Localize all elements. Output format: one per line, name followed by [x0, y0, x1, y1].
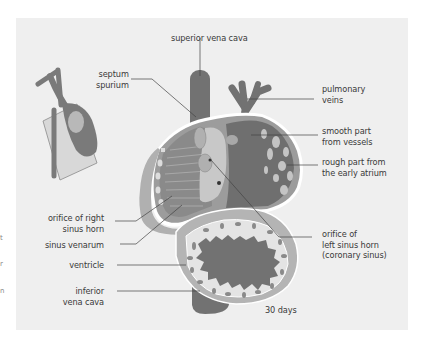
label-smooth-part: smooth part from vessels	[322, 126, 372, 147]
label-orifice-right-sinus-horn: orifice of right sinus horn	[48, 213, 104, 234]
edge-mark: t	[0, 234, 3, 242]
label-orifice-left-sinus-horn: orifice of left sinus horn (coronary sin…	[322, 229, 387, 261]
edge-mark: r	[0, 260, 3, 268]
label-sinus-venarum: sinus venarum	[45, 240, 104, 251]
edge-mark: n	[0, 287, 4, 295]
label-rough-part: rough part from the early atrium	[322, 157, 387, 178]
label-stage-30-days: 30 days	[265, 305, 297, 316]
label-inferior-vena-cava: inferior vena cava	[63, 286, 104, 307]
heart-main	[139, 70, 303, 314]
label-ventricle: ventricle	[69, 260, 104, 271]
orientation-sketch	[38, 70, 97, 180]
label-septum-spurium: septum spurium	[96, 69, 129, 90]
label-superior-vena-cava: superior vena cava	[171, 33, 248, 44]
label-pulmonary-veins: pulmonary veins	[322, 84, 365, 105]
